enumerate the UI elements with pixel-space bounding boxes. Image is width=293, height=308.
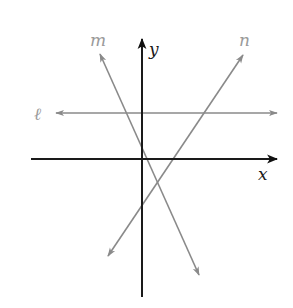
line-n (108, 55, 243, 256)
line-n-label: n (239, 30, 250, 50)
line-l-label: ℓ (34, 104, 41, 124)
coordinate-diagram: y x m n ℓ (0, 0, 293, 308)
y-axis-label: y (148, 39, 159, 59)
line-m-label: m (90, 30, 106, 50)
line-m (100, 54, 199, 275)
x-axis-label: x (258, 164, 268, 184)
